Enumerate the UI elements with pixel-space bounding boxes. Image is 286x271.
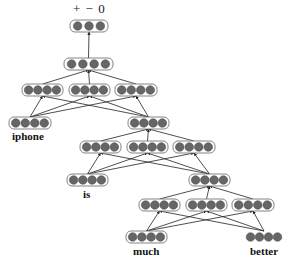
edge-p2_b-to-p2 [207, 186, 210, 199]
node-vector-p2_b [186, 199, 227, 211]
edge-better-to-p2_a [160, 211, 265, 231]
edge-much-to-p2_a [147, 211, 160, 231]
node-vector-p1_a [80, 141, 121, 153]
sentiment-output-label: + − 0 [73, 1, 106, 17]
node-vector-is [67, 174, 108, 186]
node-vector-p1 [128, 117, 169, 129]
node-vector-r_a [22, 84, 63, 96]
edge-r_c-to-root [89, 70, 137, 84]
word-label-iphone: iphone [12, 130, 44, 142]
word-label-much: much [133, 245, 159, 257]
nodes-layer [9, 20, 282, 243]
edge-is-to-p1_a [88, 153, 101, 174]
node-vector-r_c [115, 84, 157, 96]
edge-p1_b-to-p1 [148, 129, 149, 141]
node-vector-p2 [189, 174, 230, 186]
node-vector-root [64, 58, 113, 70]
node-vector-better [246, 233, 282, 242]
word-label-better: better [250, 245, 278, 257]
edge-r_a-to-root [43, 70, 89, 84]
node-vector-out [70, 20, 108, 32]
node-vector-much [126, 231, 167, 243]
edge-p2_a-to-p2 [160, 186, 210, 199]
edge-iphone-to-r_a [30, 96, 43, 117]
edge-p2_c-to-p2 [210, 186, 254, 199]
node-vector-p2_c [232, 199, 274, 211]
edge-p2-to-p1_c [194, 153, 210, 174]
node-vector-p2_a [139, 199, 180, 211]
edge-p1_a-to-p1 [101, 129, 149, 141]
node-vector-r_b [69, 84, 110, 96]
node-vector-iphone [9, 117, 51, 129]
edge-much-to-p2_c [147, 211, 254, 231]
word-label-is: is [83, 188, 90, 200]
edge-p1-to-r_c [136, 96, 149, 117]
edge-p1-to-r_a [43, 96, 149, 117]
edge-p1_c-to-p1 [149, 129, 195, 141]
edge-root-to-out [89, 32, 90, 58]
node-vector-p1_b [127, 141, 168, 153]
node-vector-p1_c [173, 141, 215, 153]
edge-r_b-to-root [89, 70, 90, 84]
